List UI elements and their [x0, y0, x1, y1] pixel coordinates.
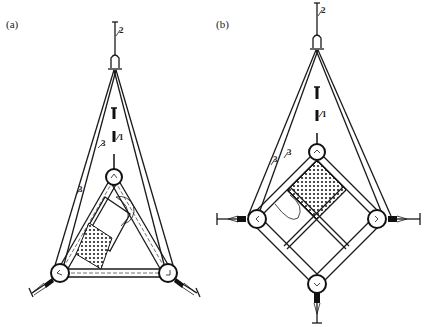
panel-a-label: (a) — [6, 18, 19, 31]
node-left-b — [248, 210, 266, 228]
node-right-b — [368, 210, 386, 228]
shackle-b — [310, 35, 324, 49]
anchor-left-a — [29, 278, 54, 297]
shackle-a — [108, 55, 122, 69]
callout-2-a: 2 — [119, 25, 124, 35]
rope-b: 2 — [314, 3, 326, 36]
panel-b: (b) 2 3 3 — [216, 3, 420, 323]
node-right-a — [159, 264, 177, 282]
diamond-frame — [253, 155, 381, 283]
callout-1-b: 1 — [322, 109, 327, 119]
node-bottom-b — [308, 275, 326, 293]
callout-1-a: 1 — [119, 132, 124, 142]
anchor-right-a — [174, 278, 200, 297]
node-top-a — [106, 169, 122, 185]
node-top-b — [309, 144, 325, 160]
rod-a: 1 — [111, 108, 124, 170]
callout-3-a1: 3 — [101, 138, 106, 148]
node-left-a — [51, 264, 69, 282]
callout-2-b: 2 — [321, 5, 326, 15]
rod-b: 1 — [314, 87, 327, 144]
anchor-bottom-b — [312, 293, 322, 323]
panel-b-label: (b) — [216, 18, 229, 31]
anchor-right-b — [388, 213, 420, 225]
rope-a: 2 — [112, 22, 124, 55]
diagram-canvas: (a) 2 3 3 — [0, 0, 429, 327]
panel-a: (a) 2 3 3 — [6, 18, 200, 297]
anchor-left-b — [217, 213, 246, 225]
callout-3-a2: 3 — [78, 184, 83, 194]
callout-3-b2: 3 — [273, 154, 278, 164]
callout-3-b1: 3 — [287, 147, 292, 157]
